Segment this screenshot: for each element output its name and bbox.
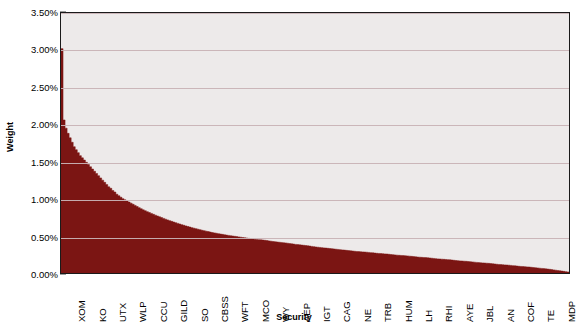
weight-series-area: [61, 13, 569, 273]
y-tick-label: 0.00%: [8, 269, 58, 280]
gridline: [61, 13, 569, 14]
gridline: [61, 200, 569, 201]
plot-area: [60, 12, 570, 274]
x-axis-title: Security: [0, 312, 588, 322]
y-axis-tick-labels: 0.00%0.50%1.00%1.50%2.00%2.50%3.00%3.50%: [8, 0, 58, 328]
gridline: [61, 238, 569, 239]
gridline: [61, 125, 569, 126]
y-tick-label: 2.00%: [8, 119, 58, 130]
y-tick-label: 3.00%: [8, 44, 58, 55]
y-tick-label: 0.50%: [8, 231, 58, 242]
y-tick-label: 2.50%: [8, 81, 58, 92]
y-tick-label: 1.00%: [8, 194, 58, 205]
y-tick-label: 3.50%: [8, 7, 58, 18]
gridline: [61, 163, 569, 164]
gridline: [61, 88, 569, 89]
x-axis-tick-labels: XOMKOUTXWLPCCUGILDSOCBSSWFTMCOWYAEPIGTCA…: [60, 276, 570, 316]
y-tick-label: 1.50%: [8, 156, 58, 167]
weight-by-security-chart: Weight 0.00%0.50%1.00%1.50%2.00%2.50%3.0…: [0, 0, 588, 328]
gridline: [61, 50, 569, 51]
weight-bars: [61, 49, 569, 273]
